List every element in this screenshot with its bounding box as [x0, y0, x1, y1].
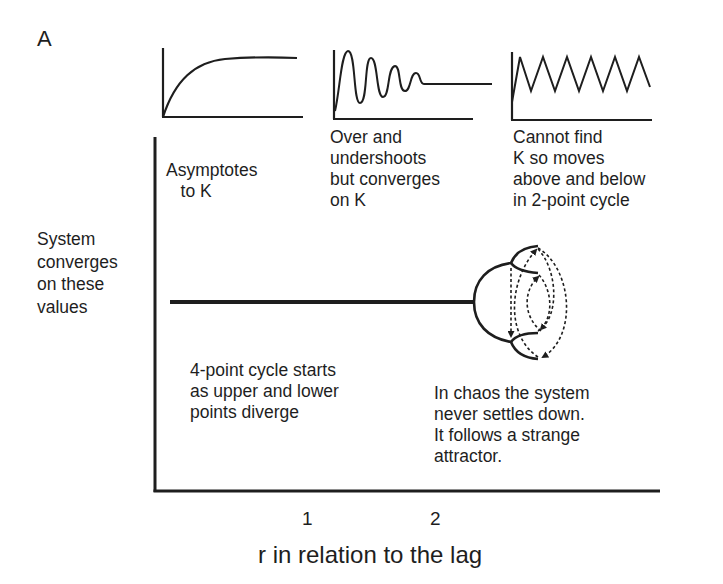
annotation-chaos: In chaos the system never settles down. …	[434, 383, 590, 467]
caption-asymptotic: Asymptotes to K	[166, 160, 257, 202]
caption-damped-oscillation: Over and undershoots but converges on K	[330, 127, 440, 211]
inset-asymptotic-plot	[162, 48, 303, 117]
x-tick-2: 2	[430, 508, 441, 530]
strange-attractor-arrows	[511, 248, 567, 357]
annotation-four-point-cycle: 4-point cycle starts as upper and lower …	[190, 360, 339, 423]
inset-damped-oscillation-plot	[333, 50, 492, 119]
x-tick-1: 1	[302, 508, 313, 530]
bifurcation-branches	[474, 246, 538, 359]
y-axis-label: System converges on these values	[37, 228, 118, 318]
caption-two-point-cycle: Cannot find K so moves above and below i…	[513, 127, 645, 211]
inset-two-point-cycle-plot	[511, 52, 652, 120]
x-axis-label: r in relation to the lag	[258, 541, 482, 569]
